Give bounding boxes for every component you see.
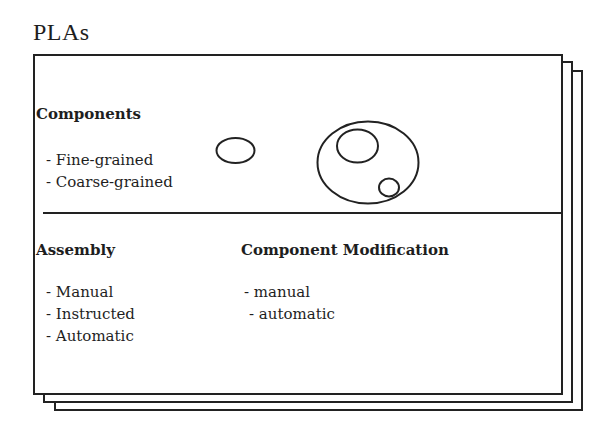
assembly-heading: Assembly <box>36 241 115 259</box>
fine-grained-component-icon <box>217 138 255 163</box>
coarse-grained-component-icon <box>318 122 419 204</box>
inner-component-large-icon <box>337 130 378 163</box>
list-item: - manual <box>244 281 335 303</box>
list-item: - Instructed <box>46 303 135 325</box>
section-divider <box>43 212 562 214</box>
modification-list: - manual - automatic <box>244 281 335 325</box>
list-item: - Manual <box>46 281 135 303</box>
list-item: - Automatic <box>46 325 135 347</box>
component-modification-heading: Component Modification <box>241 241 449 259</box>
list-item: - automatic <box>244 303 335 325</box>
inner-component-small-icon <box>379 179 399 197</box>
assembly-list: - Manual - Instructed - Automatic <box>46 281 135 347</box>
